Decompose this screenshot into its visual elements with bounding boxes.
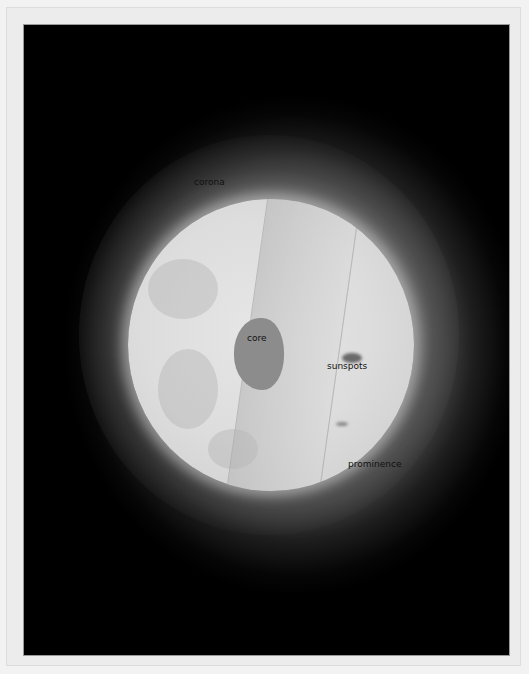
surface-mottle bbox=[148, 259, 218, 319]
label-core: core bbox=[247, 334, 267, 343]
label-prominence: prominence bbox=[348, 460, 401, 469]
sun-core bbox=[234, 318, 284, 390]
surface-mottle bbox=[158, 349, 218, 429]
sun-photo: corona core sunspots prominence bbox=[23, 24, 510, 656]
sunspot-small bbox=[336, 422, 348, 426]
label-sunspots: sunspots bbox=[327, 362, 367, 371]
sun-sphere bbox=[128, 199, 414, 491]
label-corona: corona bbox=[194, 178, 225, 187]
